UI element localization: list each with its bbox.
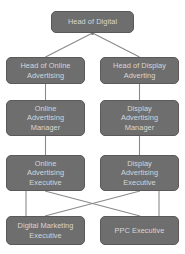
node-label: Digital Marketing Executive [9,221,82,239]
edge-digital-to-online [46,33,93,57]
node-online-advertising-manager[interactable]: Online Advertising Manager [6,100,85,136]
node-label: Head of Online Advertising [9,61,82,79]
node-label: Online Advertising Manager [9,104,82,132]
edge-digital-to-display [93,33,140,57]
org-chart: Head of Digital Head of Online Advertisi… [0,0,185,254]
node-head-of-display-adverting[interactable]: Head of Display Adverting [100,57,179,84]
node-label: PPC Executive [103,226,176,235]
node-label: Display Advertising Executive [103,159,176,187]
node-head-of-online-advertising[interactable]: Head of Online Advertising [6,57,85,84]
node-online-advertising-executive[interactable]: Online Advertising Executive [6,155,85,191]
node-display-advertising-executive[interactable]: Display Advertising Executive [100,155,179,191]
node-ppc-executive[interactable]: PPC Executive [100,216,179,245]
node-label: Head of Digital [54,17,131,26]
node-head-of-digital[interactable]: Head of Digital [51,11,134,33]
node-label: Display Advertising Manager [103,104,176,132]
node-digital-marketing-executive[interactable]: Digital Marketing Executive [6,216,85,245]
node-label: Online Advertising Executive [9,159,82,187]
node-label: Head of Display Adverting [103,61,176,79]
node-display-advertising-manager[interactable]: Display Advertising Manager [100,100,179,136]
